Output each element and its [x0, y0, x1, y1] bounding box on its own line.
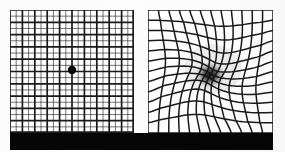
black-base-bar — [10, 133, 273, 150]
panel-normal-vision — [10, 10, 134, 133]
scotoma-haze — [185, 44, 242, 93]
panel-distorted-vision — [148, 10, 273, 133]
distorted-grid-svg — [148, 10, 273, 133]
normal-grid-svg — [10, 10, 134, 133]
fixation-dot — [68, 66, 76, 74]
amsler-grid-figure — [0, 0, 285, 152]
